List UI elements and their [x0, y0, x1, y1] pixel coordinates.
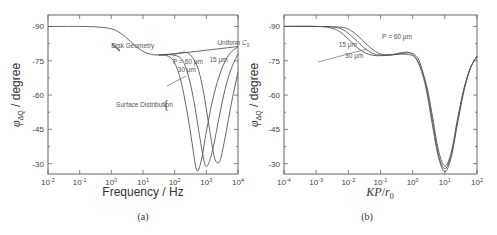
series-line-p-60-m	[284, 26, 477, 171]
annotation-label: 30 μm	[345, 52, 363, 60]
series-line-p-30-m	[284, 26, 477, 168]
curves-b	[284, 26, 477, 171]
y-tick-label: -75	[32, 57, 44, 66]
x-tick-label: 10-2	[41, 177, 55, 187]
series-line-p-60-m	[159, 47, 238, 171]
y-tick-label: -75	[268, 57, 280, 66]
plot-frame-a	[48, 15, 238, 174]
y-tick-label: -45	[32, 125, 44, 134]
annotation-label: Uniform C0	[217, 39, 249, 48]
y-tick-label: -30	[268, 160, 280, 169]
x-tick-label: 103	[200, 177, 212, 187]
annotations-a: Disk GeometryUniform C0P = 60 μm15 μm30 …	[111, 39, 249, 108]
x-tick-label: 10-4	[277, 177, 291, 187]
x-tick-label: 102	[471, 177, 483, 187]
axis-ticks-b: 10-410-310-210-1100101102-90-75-60-45-30	[268, 15, 483, 187]
x-tick-label: 10-3	[309, 177, 323, 187]
x-axis-title-b: KP/r0	[365, 185, 393, 201]
panel-label-b: (b)	[361, 211, 373, 223]
brace-icon: {	[163, 97, 169, 112]
x-tick-label: 104	[232, 177, 244, 187]
annotations-b: P = 60 μm15 μm30 μm	[339, 33, 412, 60]
y-tick-label: -30	[32, 160, 44, 169]
y-tick-label: -60	[268, 91, 280, 100]
y-tick-label: -90	[32, 22, 44, 31]
y-tick-label: -90	[268, 22, 280, 31]
annotation-label: 15 μm	[339, 41, 357, 49]
plot-frame-b	[284, 15, 477, 174]
figure: 10-210-1100101102103104-90-75-60-45-30 D…	[0, 0, 497, 235]
series-line-uniform-c0-disk-geometry	[48, 26, 238, 55]
panel-b: 10-410-310-210-1100101102-90-75-60-45-30…	[247, 15, 483, 223]
annotation-label: 15 μm	[210, 56, 228, 64]
x-tick-label: 100	[407, 177, 419, 187]
y-tick-label: -45	[268, 125, 280, 134]
annotation-label: P = 60 μm	[382, 33, 412, 41]
y-axis-title-a: φΔQ / degree	[9, 63, 25, 127]
panel-label-a: (a)	[137, 211, 148, 223]
x-tick-label: 10-2	[341, 177, 355, 187]
annotation-label: P = 60 μm	[173, 58, 203, 66]
y-axis-title-b: φΔQ / degree	[247, 63, 263, 127]
x-tick-label: 101	[439, 177, 451, 187]
series-line-p-15-m	[284, 26, 477, 166]
x-axis-title-a: Frequency / Hz	[102, 185, 183, 199]
y-tick-label: -60	[32, 91, 44, 100]
x-tick-label: 10-1	[73, 177, 87, 187]
arrow-30um-a	[167, 76, 186, 86]
annotation-label: 30 μm	[178, 66, 196, 74]
panel-a: 10-210-1100101102103104-90-75-60-45-30 D…	[9, 15, 250, 223]
